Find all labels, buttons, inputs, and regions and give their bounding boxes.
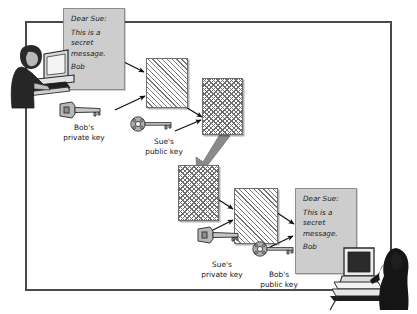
recipient-at-computer xyxy=(322,234,414,312)
note-salutation: Dear Sue: xyxy=(71,14,118,25)
note-salutation: Dear Sue: xyxy=(303,194,350,205)
note-body-line-2: secret xyxy=(303,218,350,229)
diagram-canvas: Dear Sue: This is a secret message. Bob … xyxy=(0,0,417,314)
encrypted-message-document xyxy=(202,78,243,135)
note-body-line-1: This is a xyxy=(303,208,350,219)
key-caption: Bob's private key xyxy=(48,123,120,142)
sender-at-computer xyxy=(4,36,84,112)
public-key-icon xyxy=(129,115,175,133)
key-caption-line-2: public key xyxy=(243,280,315,290)
public-key-icon xyxy=(251,240,297,258)
key-caption-line-1: Bob's xyxy=(48,123,120,133)
key-caption: Bob's public key xyxy=(243,270,315,289)
key-caption-line-1: Sue's xyxy=(186,260,258,270)
key-caption-line-2: public key xyxy=(128,147,200,157)
private-key-icon xyxy=(196,224,242,246)
key-caption-line-1: Sue's xyxy=(128,137,200,147)
key-caption-line-2: private key xyxy=(48,133,120,143)
key-caption-line-1: Bob's xyxy=(243,270,315,280)
signed-message-document xyxy=(146,58,188,108)
key-caption: Sue's public key xyxy=(128,137,200,156)
received-encrypted-document xyxy=(178,165,219,221)
